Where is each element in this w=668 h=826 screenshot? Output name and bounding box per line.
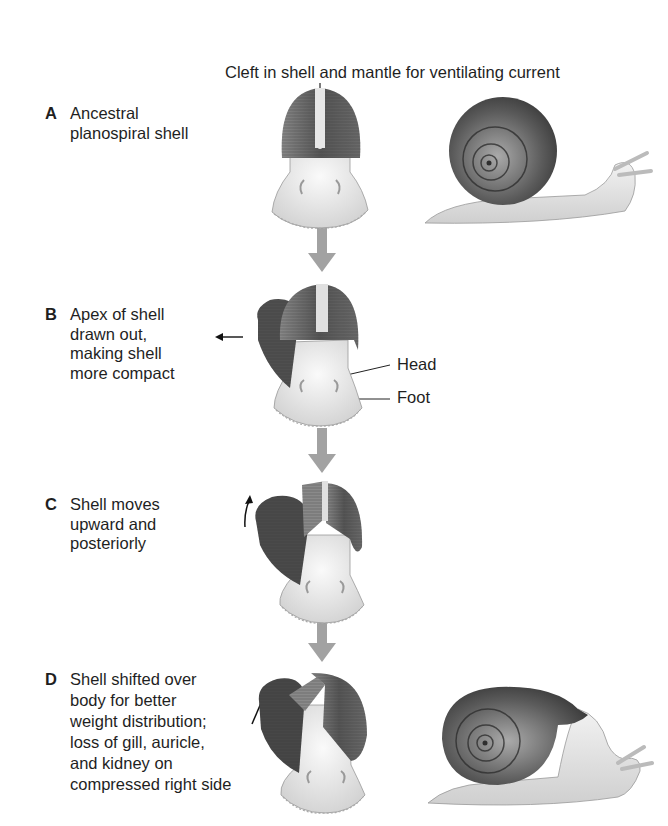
snail-lateral-view-d bbox=[428, 685, 663, 810]
snail-dorsal-view-b bbox=[250, 280, 380, 430]
flow-arrow-icon bbox=[308, 428, 336, 474]
snail-dorsal-view-d bbox=[255, 665, 385, 815]
flow-arrow-icon bbox=[308, 227, 336, 273]
snail-dorsal-view-c bbox=[250, 475, 380, 625]
left-arrow-icon bbox=[215, 330, 245, 344]
snail-dorsal-view-a bbox=[268, 82, 378, 232]
snail-lateral-view-a bbox=[425, 95, 665, 225]
